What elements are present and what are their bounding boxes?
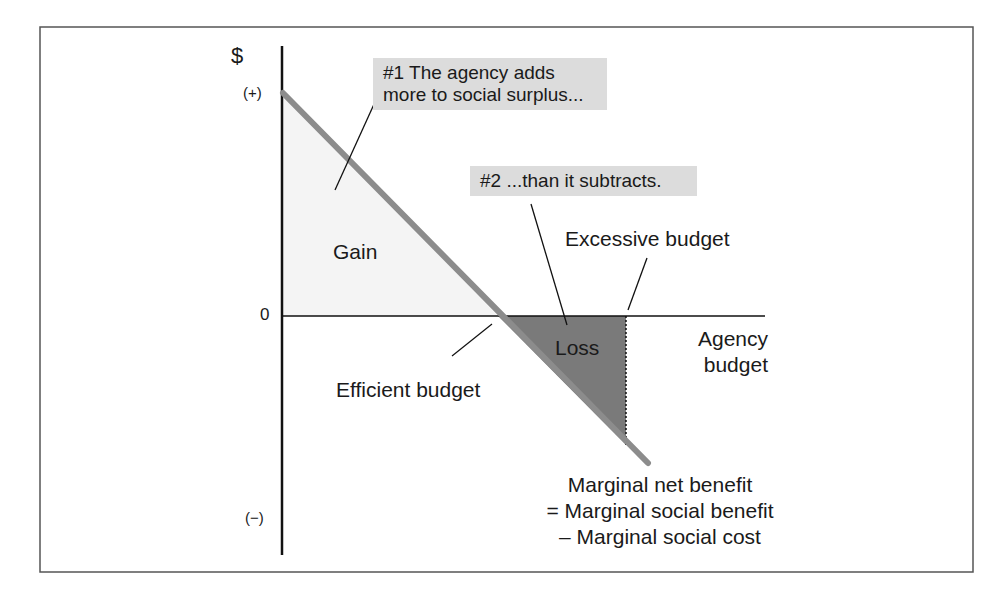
callout-2-leader: [531, 204, 567, 325]
callout-1-line1: #1 The agency adds: [383, 62, 597, 84]
excessive-budget-leader: [628, 258, 647, 310]
y-tick-positive: (+): [243, 84, 262, 101]
x-axis-label: Agency budget: [686, 327, 768, 377]
efficient-budget-label: Efficient budget: [336, 378, 480, 402]
curve-label-line3: – Marginal social cost: [520, 524, 800, 550]
gain-label: Gain: [333, 240, 377, 264]
callout-1-line2: more to social surplus...: [383, 84, 597, 106]
curve-label-line2: = Marginal social benefit: [520, 498, 800, 524]
x-axis-label-line1: Agency: [686, 327, 768, 351]
y-tick-zero: 0: [260, 305, 269, 325]
x-axis-label-line2: budget: [686, 353, 768, 377]
y-axis-label: $: [231, 43, 243, 68]
callout-1: #1 The agency adds more to social surplu…: [373, 58, 607, 110]
curve-label: Marginal net benefit = Marginal social b…: [520, 472, 800, 550]
efficient-budget-leader: [452, 324, 492, 356]
y-tick-negative: (−): [245, 509, 264, 526]
callout-2: #2 ...than it subtracts.: [470, 166, 697, 196]
loss-label: Loss: [555, 336, 599, 360]
excessive-budget-label: Excessive budget: [565, 227, 730, 251]
curve-label-line1: Marginal net benefit: [520, 472, 800, 498]
